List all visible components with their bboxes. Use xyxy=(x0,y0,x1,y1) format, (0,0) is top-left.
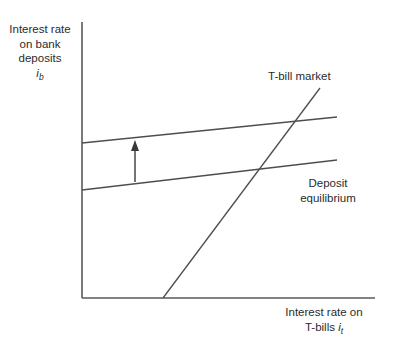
y-axis-label: Interest rate on bank depositsib xyxy=(2,22,78,84)
y-axis-label-text: Interest rate on bank deposits xyxy=(9,23,70,64)
deposit-equilibrium-label: Deposit equilibrium xyxy=(272,176,384,205)
tbill-market-label: T-bill market xyxy=(268,69,378,84)
x-axis-label-text: Interest rate on T-bills xyxy=(285,306,362,333)
economics-diagram: Interest rate on bank depositsib Interes… xyxy=(0,0,395,346)
y-axis-symbol-subscript: b xyxy=(39,72,44,82)
x-axis-symbol-subscript: t xyxy=(341,326,343,336)
x-axis-label: Interest rate on T-bills it xyxy=(258,305,390,338)
shift-arrow-head-icon xyxy=(131,140,139,151)
deposit-equilibrium-shifted-line xyxy=(82,117,337,143)
